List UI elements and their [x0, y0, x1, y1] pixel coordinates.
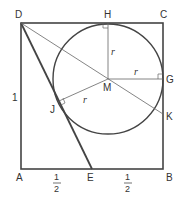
label-r-mh: r — [111, 46, 115, 57]
label-a: A — [16, 172, 23, 183]
label-side-ad: 1 — [12, 92, 18, 103]
label-c: C — [160, 9, 167, 20]
geometry-diagram: D H C G M J K A E B 1 r r r 1 2 1 2 — [0, 0, 185, 206]
label-g: G — [166, 74, 174, 85]
label-m: M — [103, 82, 111, 93]
label-b: B — [166, 172, 173, 183]
fraction-ae: 1 2 — [53, 172, 61, 194]
fraction-ae-denominator: 2 — [54, 184, 59, 194]
fraction-eb: 1 2 — [124, 172, 132, 194]
label-r-mj: r — [83, 94, 87, 105]
fraction-ae-numerator: 1 — [54, 172, 59, 182]
segment-de — [21, 23, 92, 169]
label-k: K — [166, 111, 173, 122]
square-abcd — [21, 23, 163, 169]
label-e: E — [87, 172, 94, 183]
label-h: H — [104, 9, 111, 20]
fraction-eb-denominator: 2 — [125, 184, 130, 194]
label-r-mg: r — [134, 66, 138, 77]
label-j: J — [50, 104, 55, 115]
label-d: D — [15, 9, 22, 20]
fraction-eb-numerator: 1 — [125, 172, 130, 182]
